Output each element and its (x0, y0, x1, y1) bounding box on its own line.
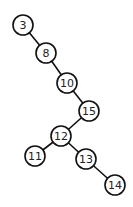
node-label: 11 (28, 150, 42, 163)
tree-node-12: 12 (51, 126, 71, 146)
node-label: 14 (108, 179, 122, 192)
node-label: 12 (54, 130, 68, 143)
tree-diagram: 38101512111314 (0, 0, 133, 207)
tree-node-11: 11 (25, 146, 45, 166)
nodes: 38101512111314 (13, 15, 125, 195)
node-label: 15 (82, 105, 96, 118)
tree-node-15: 15 (79, 101, 99, 121)
tree-node-10: 10 (57, 73, 77, 93)
tree-node-13: 13 (76, 149, 96, 169)
node-label: 10 (60, 77, 74, 90)
node-label: 8 (43, 47, 50, 60)
node-label: 13 (79, 153, 93, 166)
tree-node-3: 3 (13, 15, 33, 35)
tree-node-14: 14 (105, 175, 125, 195)
node-label: 3 (20, 19, 27, 32)
tree-node-8: 8 (36, 43, 56, 63)
